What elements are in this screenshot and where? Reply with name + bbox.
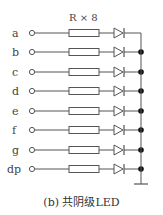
resistor-icon: [69, 108, 99, 115]
diode-icon: [114, 145, 123, 155]
terminal-icon: [29, 147, 34, 152]
diode-icon: [114, 86, 123, 96]
resistor-icon: [69, 69, 99, 76]
segment-label: c: [12, 66, 18, 79]
resistor-icon: [69, 127, 99, 134]
diode-icon: [114, 67, 123, 77]
resistor-icon: [69, 49, 99, 56]
terminal-icon: [29, 88, 34, 93]
resistor-icon: [69, 88, 99, 95]
diode-icon: [114, 125, 123, 135]
diode-icon: [114, 164, 123, 174]
resistor-icon: [69, 30, 99, 37]
figure-caption: (b) 共阴级LED: [0, 193, 163, 209]
segment-label: a: [12, 27, 19, 40]
segment-label: g: [12, 144, 19, 157]
diode-icon: [114, 106, 123, 116]
diode-icon: [114, 47, 123, 57]
diode-icon: [114, 28, 123, 38]
terminal-icon: [29, 108, 34, 113]
terminal-icon: [29, 166, 34, 171]
resistor-icon: [69, 147, 99, 154]
segment-label: f: [12, 124, 17, 137]
terminal-icon: [29, 127, 34, 132]
resistor-icon: [69, 166, 99, 173]
terminal-icon: [29, 30, 34, 35]
segment-label: b: [12, 46, 19, 59]
segment-label: d: [12, 85, 19, 98]
segment-label: dp: [7, 163, 21, 176]
terminal-icon: [29, 49, 34, 54]
terminal-icon: [29, 69, 34, 74]
segment-label: e: [12, 105, 19, 118]
common-cathode-led-circuit: abcdefgdp: [0, 0, 163, 215]
